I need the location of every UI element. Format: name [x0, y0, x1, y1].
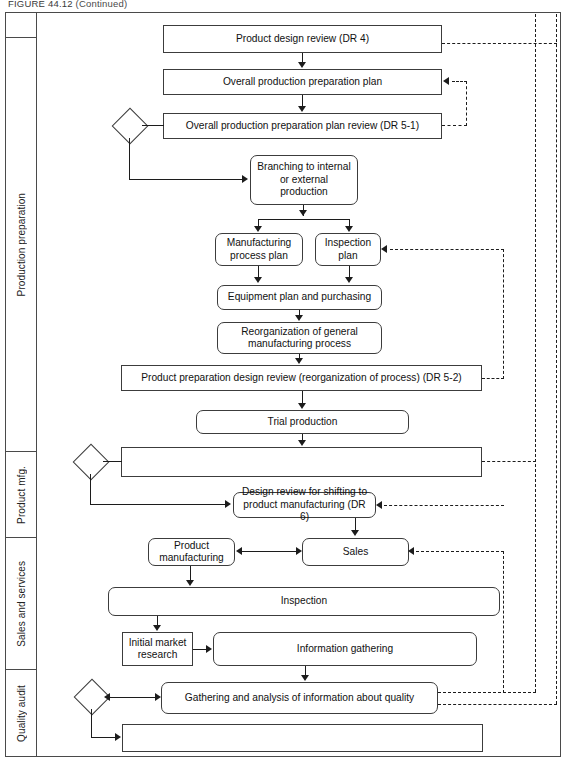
connector-line	[190, 566, 191, 580]
node-overall-production-preparation-plan[interactable]: Overall production preparation plan	[163, 69, 442, 95]
swimlane-label: Product mfg.	[16, 466, 27, 524]
feedback-dashed-line	[442, 43, 557, 44]
node-sales[interactable]: Product manufacturing	[148, 538, 235, 566]
feedback-dashed-line	[466, 81, 467, 126]
feedback-dashed-line	[503, 551, 504, 693]
node-design-review-shifting-to-manufacturing[interactable]	[121, 447, 482, 477]
feedback-dashed-line	[452, 81, 467, 82]
arrowhead-right	[242, 175, 248, 183]
arrowhead-down	[298, 62, 306, 68]
connector-line	[110, 697, 155, 698]
figure-caption-main: FIGURE 44.12	[8, 0, 73, 9]
arrowhead-down	[345, 226, 353, 232]
node-trial-production[interactable]: Trial production	[196, 410, 409, 434]
arrowhead-down	[298, 440, 306, 446]
figure-caption: FIGURE 44.12 (Continued)	[8, 0, 127, 9]
arrowhead-left	[408, 547, 414, 555]
connector-line	[90, 504, 226, 505]
arrowhead-down	[254, 226, 262, 232]
node-initial-market-research[interactable]: Inspection	[108, 587, 500, 616]
node-manufacturing-process-plan[interactable]: Manufacturing process plan	[215, 233, 303, 266]
swimlane-quality-audit: Quality audit	[5, 670, 37, 757]
arrowhead-left	[381, 245, 387, 253]
arrowhead-left	[443, 77, 449, 85]
feedback-bus-outer	[556, 14, 557, 704]
connector-line	[242, 551, 296, 552]
node-product-design-review[interactable]: Product design review (DR 4)	[163, 25, 442, 53]
connector-line	[91, 737, 115, 738]
arrowhead-down	[254, 277, 262, 283]
connector-line	[302, 391, 303, 403]
arrowhead-left	[236, 547, 242, 555]
connector-line	[129, 179, 243, 180]
swimlane-label: Production preparation	[16, 193, 27, 296]
arrowhead-down	[299, 210, 307, 216]
feedback-dashed-line	[416, 551, 504, 552]
node-inspection[interactable]: Sales	[302, 538, 409, 566]
feedback-dashed-line	[390, 249, 504, 250]
swimlane-production-preparation: Production preparation	[5, 38, 37, 452]
node-overall-production-preparation-plan-review[interactable]: Overall production preparation plan revi…	[163, 113, 442, 139]
connector-line	[129, 138, 130, 180]
node-quality-audit[interactable]	[122, 724, 483, 752]
arrowhead-left	[104, 693, 110, 701]
node-quality-improvement-measures[interactable]: Gathering and analysis of information ab…	[161, 682, 438, 714]
node-reorganization-manufacturing-process[interactable]: Reorganization of general manufacturing …	[217, 322, 382, 354]
node-product-manufacturing[interactable]: Design review for shifting to product ma…	[233, 492, 376, 518]
arrowhead-down	[295, 358, 303, 364]
arrowhead-left	[376, 501, 382, 509]
arrowhead-right	[155, 693, 161, 701]
feedback-dashed-line	[384, 505, 504, 506]
arrowhead-down	[298, 403, 306, 409]
connector-line	[355, 518, 356, 530]
arrowhead-down	[298, 106, 306, 112]
node-information-gathering[interactable]: Initial market research	[122, 632, 193, 666]
feedback-dashed-line	[482, 461, 536, 462]
feedback-dashed-line	[442, 125, 467, 126]
node-product-preparation-design-review[interactable]: Product preparation design review (reorg…	[121, 365, 482, 391]
feedback-bus-inner	[535, 14, 536, 692]
node-gathering-analysis-quality-info[interactable]: Information gathering	[213, 632, 477, 666]
connector-line	[142, 125, 164, 126]
arrowhead-down	[295, 315, 303, 321]
feedback-dashed-line	[482, 378, 504, 379]
swimlane-product-mfg: Product mfg.	[5, 452, 37, 538]
node-equipment-plan-and-purchasing[interactable]: Equipment plan and purchasing	[217, 285, 382, 310]
swimlane-label: Sales and services	[16, 561, 27, 647]
connector-line	[91, 709, 92, 738]
arrowhead-right	[296, 547, 302, 555]
swimlane-label: Quality audit	[16, 685, 27, 742]
swimlane-sales-and-services: Sales and services	[5, 538, 37, 670]
node-inspection-plan[interactable]: Inspection plan	[315, 233, 381, 266]
arrowhead-down	[186, 580, 194, 586]
feedback-dashed-line	[503, 249, 504, 379]
flowchart-page: FIGURE 44.12 (Continued) Production prep…	[0, 0, 573, 767]
arrowhead-down	[301, 675, 309, 681]
swimlane-header-blank	[5, 12, 37, 38]
figure-caption-note: (Continued)	[76, 0, 128, 9]
connector-line	[103, 461, 122, 462]
arrowhead-down	[345, 277, 353, 283]
connector-line	[90, 474, 91, 505]
arrowhead-right	[206, 645, 212, 653]
arrowhead-right	[115, 733, 121, 741]
feedback-dashed-line	[438, 692, 536, 693]
arrowhead-down	[153, 625, 161, 631]
arrowhead-down	[351, 530, 359, 536]
connector-line	[258, 219, 350, 220]
connector-line	[193, 649, 206, 650]
feedback-dashed-line	[438, 704, 557, 705]
node-branching-internal-external[interactable]: Branching to internal or external produc…	[250, 155, 358, 205]
arrowhead-right	[225, 500, 231, 508]
connector-line	[302, 95, 303, 106]
